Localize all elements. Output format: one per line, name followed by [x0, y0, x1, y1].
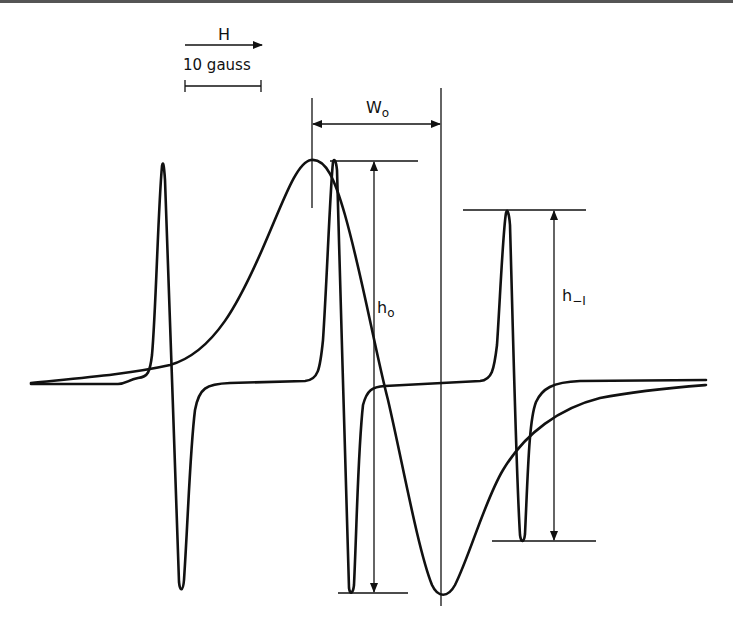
scale-bar-label: 10 gauss [183, 58, 251, 73]
field-label: H [218, 27, 230, 43]
height-minus1-dimension [463, 210, 596, 541]
height-center-label-base: h [377, 298, 387, 317]
height-center-label-sub: o [387, 306, 394, 320]
narrow-lines-curve [31, 160, 706, 593]
height-minus1-label-base: h [562, 286, 572, 305]
scale-bar [185, 80, 261, 92]
esr-spectrum-figure: H 10 gauss Wo ho h−I [0, 0, 733, 624]
spectrum-plot [0, 0, 733, 624]
width-label-sub: o [382, 106, 389, 120]
height-minus1-label: h−I [562, 288, 586, 304]
broad-line-curve [31, 160, 706, 595]
height-minus1-label-sub: −I [572, 294, 586, 308]
height-center-label: ho [377, 300, 394, 316]
width-label: Wo [366, 100, 389, 116]
width-label-base: W [366, 98, 382, 117]
